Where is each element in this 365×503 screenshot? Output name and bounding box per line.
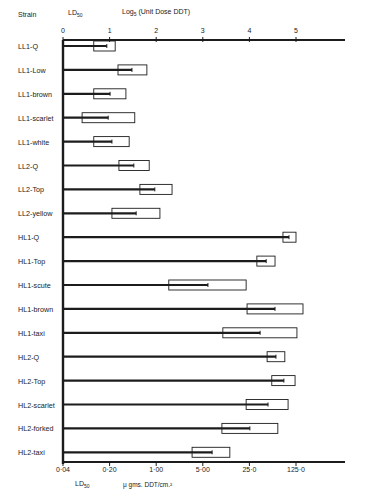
strain-label: LL1-brown	[18, 89, 52, 98]
strain-label: HL1-Q	[18, 233, 39, 242]
ld-text: LD	[68, 9, 77, 16]
strain-label: HL2-Top	[18, 376, 45, 385]
top-axis-title: Log5 (Unit Dose DDT)	[122, 8, 190, 17]
bottom-tick-label: 0·04	[56, 466, 70, 473]
strain-label: HL2-Q	[18, 352, 39, 361]
chart-canvas	[0, 0, 365, 503]
strain-label: HL1-scute	[18, 281, 51, 290]
strain-label: HL1-Top	[18, 257, 45, 266]
bottom-ld50-label: LD50	[75, 480, 90, 489]
bottom-axis-title: μ gms. DDT/cm.²	[123, 481, 172, 488]
strain-label: LL2-Q	[18, 161, 38, 170]
top-tick-label: 4	[247, 27, 251, 34]
top-tick-label: 3	[201, 27, 205, 34]
top-ld50-label: LD50	[68, 9, 83, 18]
bottom-tick-label: 125·0	[287, 466, 305, 473]
bottom-tick-label: 1·00	[149, 466, 163, 473]
strain-label: LL1-white	[18, 137, 49, 146]
strain-label: HL1-brown	[18, 304, 53, 313]
bottom-tick-label: 5·00	[196, 466, 210, 473]
strain-label: HL2-forked	[18, 424, 54, 433]
strain-label: LL1-scarlet	[18, 113, 54, 122]
top-tick-label: 1	[108, 27, 112, 34]
ld-subscript: 50	[77, 12, 83, 18]
ld-text: LD	[75, 480, 84, 487]
strain-label: HL1-taxi	[18, 328, 45, 337]
top-axis-title-rest: (Unit Dose DDT)	[136, 8, 190, 15]
strain-header: Strain	[18, 11, 36, 18]
log-text: Log	[122, 8, 134, 15]
ld-subscript: 50	[84, 483, 90, 489]
strain-label: LL2-Top	[18, 185, 44, 194]
strain-label: LL1-Q	[18, 42, 38, 51]
bottom-tick-label: 25·0	[242, 466, 256, 473]
strain-label: HL2-scarlet	[18, 400, 55, 409]
bottom-tick-label: 0·20	[103, 466, 117, 473]
ld50-range-chart: Strain LD50 Log5 (Unit Dose DDT) 012345 …	[0, 0, 365, 503]
strain-label: HL2-taxi	[18, 448, 45, 457]
top-tick-label: 5	[294, 27, 298, 34]
top-tick-label: 2	[154, 27, 158, 34]
strain-label: LL2-yellow	[18, 209, 52, 218]
top-tick-label: 0	[61, 27, 65, 34]
strain-label: LL1-Low	[18, 65, 46, 74]
